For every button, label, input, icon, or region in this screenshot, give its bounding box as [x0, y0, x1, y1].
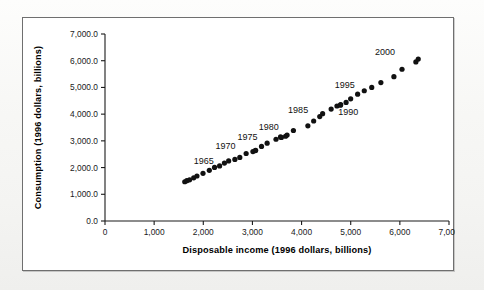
data-point [212, 165, 217, 170]
data-point [259, 144, 264, 149]
annotation-label: 1985 [288, 105, 308, 115]
annotation-label: 1990 [338, 107, 358, 117]
data-point [207, 168, 212, 173]
data-point [311, 118, 316, 123]
data-point [378, 80, 383, 85]
x-tick-label: 2,000 [193, 227, 214, 237]
data-point [291, 128, 296, 133]
scatter-chart: 0.01,000.02,000.03,000.04,000.05,000.06,… [23, 18, 455, 272]
annotation-label: 1965 [194, 156, 214, 166]
annotation-label: 1980 [259, 122, 279, 132]
y-tick-label: 1,000.0 [70, 189, 98, 199]
data-point [200, 171, 205, 176]
y-tick-label: 6,000.0 [70, 56, 98, 66]
data-point [343, 100, 348, 105]
data-point [244, 151, 249, 156]
data-point [320, 111, 325, 116]
x-tick-label: 0 [103, 227, 108, 237]
chart-canvas: 0.01,000.02,000.03,000.04,000.05,000.06,… [23, 18, 455, 272]
y-tick-label: 3,000.0 [70, 136, 98, 146]
data-point [369, 85, 374, 90]
y-axis-title: Consumption (1996 dollars, billions) [33, 46, 43, 210]
x-tick-label: 7,000 [439, 227, 455, 237]
data-point [284, 132, 289, 137]
data-point [399, 67, 404, 72]
data-points [182, 56, 421, 184]
data-point [273, 137, 278, 142]
y-tick-label: 5,000.0 [70, 82, 98, 92]
y-tick-label: 0.0 [86, 216, 98, 226]
x-tick-label: 6,000 [389, 227, 410, 237]
y-axis-ticks: 0.01,000.02,000.03,000.04,000.05,000.06,… [70, 29, 105, 226]
x-tick-label: 1,000 [144, 227, 165, 237]
x-axis-title: Disposable income (1996 dollars, billion… [182, 245, 371, 255]
data-point [232, 157, 237, 162]
data-point [226, 158, 231, 163]
data-point [305, 123, 310, 128]
data-point [329, 106, 334, 111]
y-tick-label: 2,000.0 [70, 163, 98, 173]
annotation-label: 1975 [237, 132, 257, 142]
data-point [416, 56, 421, 61]
data-point [355, 92, 360, 97]
data-point [391, 74, 396, 79]
annotation-label: 1995 [335, 80, 355, 90]
point-annotations: 19651970197519801985199019952000 [194, 47, 395, 165]
x-tick-label: 4,000 [291, 227, 312, 237]
data-point [253, 148, 258, 153]
y-tick-label: 7,000.0 [70, 29, 98, 39]
annotation-label: 2000 [375, 47, 395, 57]
figure-frame: 0.01,000.02,000.03,000.04,000.05,000.06,… [22, 17, 454, 271]
x-axis-ticks: 01,0002,0003,0004,0005,0006,0007,000 [103, 221, 455, 237]
data-point [348, 96, 353, 101]
x-tick-label: 5,000 [340, 227, 361, 237]
data-point [217, 163, 222, 168]
data-point [194, 173, 199, 178]
data-point [265, 141, 270, 146]
annotation-label: 1970 [215, 141, 235, 151]
data-point [237, 155, 242, 160]
data-point [362, 88, 367, 93]
x-tick-label: 3,000 [242, 227, 263, 237]
y-tick-label: 4,000.0 [70, 109, 98, 119]
